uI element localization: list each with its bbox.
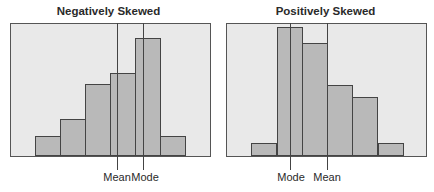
chart-title: Positively Skewed [217,5,434,17]
histogram-bar [378,143,404,156]
mean-label: Mean [103,171,131,183]
histogram-bar [135,38,161,156]
histogram-bar [60,119,86,156]
plot-area [10,23,211,157]
histogram-bar [251,143,277,156]
mode-line [143,23,144,170]
histogram-bar [35,136,61,156]
mode-label: Mode [277,171,305,183]
mode-label: Mode [131,171,159,183]
histogram-bar [160,136,186,156]
histogram-bar [85,84,111,156]
mean-line [327,23,328,170]
histogram-bar [327,85,353,156]
mode-line [290,23,291,170]
chart-title: Negatively Skewed [0,5,217,17]
histogram-bar [302,43,328,156]
mean-label: Mean [313,171,341,183]
histogram-bar [110,73,136,156]
histogram-bar [352,97,378,156]
mean-line [117,23,118,170]
